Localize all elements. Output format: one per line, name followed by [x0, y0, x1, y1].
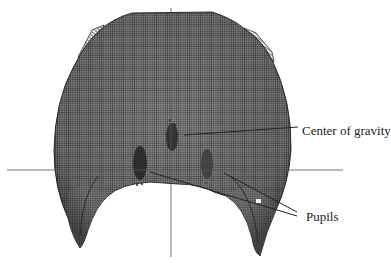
pupils-label: Pupils: [306, 210, 339, 223]
center-of-gravity-label: Center of gravity: [302, 124, 391, 137]
